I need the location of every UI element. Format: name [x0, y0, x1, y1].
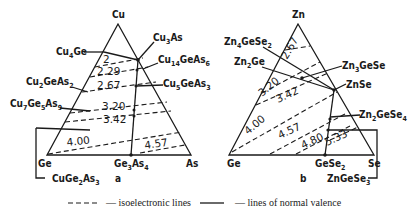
leader-zn2gese4	[330, 115, 360, 117]
leader-cu2geas2	[72, 87, 88, 92]
vertex-label-se: Se	[368, 158, 381, 169]
iso-value: 3.42	[103, 113, 126, 125]
label-ge3as4: Ge3As4	[114, 158, 149, 172]
point-zn2gese4	[328, 117, 331, 120]
label-cu4ge: Cu4Ge	[56, 46, 87, 60]
leader-cuge2as3	[36, 128, 90, 130]
iso-value: 2.67	[97, 79, 120, 91]
legend: — isoelectronic lines — lines of normal …	[68, 197, 342, 208]
point-ge3as4	[129, 153, 133, 157]
iso-value: 4.80	[299, 130, 325, 151]
iso-value: 3.42	[274, 84, 300, 105]
iso-value: 3.20	[102, 100, 125, 112]
leader-cu3as	[138, 42, 154, 60]
label-cu5geas3: Cu5GeAs3	[163, 78, 211, 92]
point-cu14geas6	[136, 69, 139, 72]
vertex-label-zn: Zn	[292, 9, 305, 20]
panel-label-a: a	[115, 173, 121, 184]
diagram-a: Cu Ge As Cu4Ge Cu3As Cu14GeAs6 Cu5GeAs3 …	[10, 9, 211, 187]
iso-value: 4.00	[66, 134, 91, 148]
vertex-label-ge: Ge	[227, 158, 241, 169]
valence-line-ge3as4	[131, 60, 138, 155]
diagram-b: Zn Ge Se Zn4GeSe2 Zn2Ge Zn3GeSe ZnSe Zn2…	[224, 9, 407, 187]
legend-isoelectronic: — isoelectronic lines	[105, 197, 191, 208]
label-cu2geas2: Cu2GeAs2	[26, 76, 74, 90]
ternary-diagrams: Cu Ge As Cu4Ge Cu3As Cu14GeAs6 Cu5GeAs3 …	[0, 0, 411, 213]
vertex-label-ge: Ge	[38, 158, 52, 169]
point-cu7ge5as9	[133, 109, 136, 112]
label-zn2ge: Zn2Ge	[234, 56, 265, 70]
label-znse: ZnSe	[346, 79, 372, 90]
iso-value: 2.29	[97, 65, 120, 77]
point-cuge2as3	[133, 115, 136, 118]
iso-value: 2	[103, 53, 110, 65]
leader-cu14geas6	[143, 63, 158, 69]
label-cu3as: Cu3As	[153, 32, 183, 46]
leader-znse	[334, 84, 346, 90]
point-gese2	[323, 153, 327, 157]
label-zn3gese: Zn3GeSe	[342, 60, 385, 74]
legend-normal-valence: — lines of normal valence	[234, 197, 342, 208]
label-cu14geas6: Cu14GeAs6	[158, 54, 211, 68]
label-cu7ge5as9: Cu7Ge5As9	[10, 98, 62, 112]
iso-value: 4.57	[276, 120, 302, 141]
label-cuge2as3: CuGe2As3	[52, 173, 100, 187]
label-zn2gese4: Zn2GeSe4	[359, 109, 407, 123]
point-zn3gese	[300, 76, 304, 80]
bracket-cuge2as3	[36, 128, 45, 178]
leader-cu5geas3	[136, 85, 163, 86]
label-gese2: GeSe2	[315, 158, 345, 172]
vertex-label-as: As	[186, 158, 198, 169]
leader-cu7ge5as9	[60, 108, 90, 111]
iso-value: 4.00	[242, 112, 268, 136]
panel-label-b: b	[300, 173, 307, 184]
vertex-label-cu: Cu	[112, 9, 125, 20]
label-zngese3: ZnGeSe3	[327, 173, 370, 187]
